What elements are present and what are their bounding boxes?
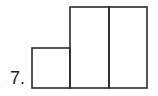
tall-rect-right — [109, 7, 147, 88]
composite-rectangles-figure — [0, 0, 158, 96]
tall-rect-left — [70, 7, 109, 88]
small-square — [32, 48, 70, 88]
